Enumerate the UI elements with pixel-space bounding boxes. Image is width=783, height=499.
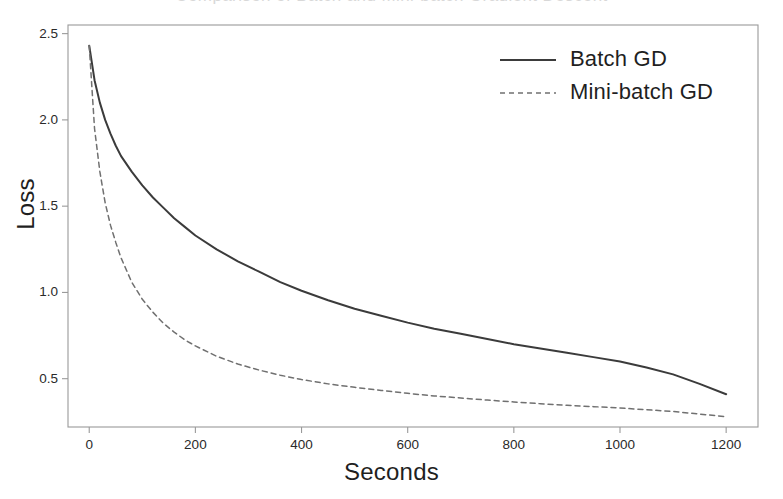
chart-figure: Comparison of Batch and Mini-batch Gradi…	[0, 0, 783, 499]
legend-label-1: Batch GD	[570, 46, 667, 72]
legend-label-2: Mini-batch GD	[570, 79, 713, 105]
legend-swatches	[0, 0, 783, 499]
